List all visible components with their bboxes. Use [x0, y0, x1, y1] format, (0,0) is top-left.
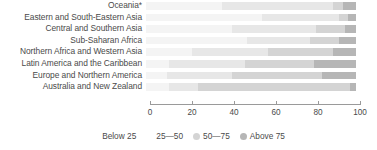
- bar-segment: [146, 2, 222, 10]
- chart-row: Oceania*: [0, 0, 377, 12]
- bar-segment: [339, 14, 347, 22]
- stacked-bar: [146, 25, 356, 33]
- bar-segment: [222, 2, 333, 10]
- category-label: Sub-Saharan Africa: [0, 35, 146, 47]
- bar-segment: [245, 60, 314, 68]
- x-axis-tick: [360, 101, 361, 105]
- bar-segment: [146, 14, 262, 22]
- x-axis-tick: [150, 101, 151, 105]
- chart-row: Northern Africa and Western Asia: [0, 46, 377, 58]
- bar-segment: [232, 72, 322, 80]
- legend-label: 25—50: [156, 131, 183, 141]
- category-label: Eastern and South-Eastern Asia: [0, 12, 146, 24]
- legend-swatch-icon: [240, 133, 247, 140]
- legend-item[interactable]: Below 25: [92, 131, 136, 141]
- bar-segment: [146, 72, 167, 80]
- bar-segment: [333, 2, 344, 10]
- legend-swatch-icon: [193, 133, 200, 140]
- chart-row: Central and Southern Asia: [0, 23, 377, 35]
- bar-segment: [146, 37, 247, 45]
- x-axis-tick-label: 40: [229, 108, 238, 118]
- x-axis-tick-label: 0: [148, 108, 153, 118]
- bar-segment: [322, 72, 356, 80]
- bar-segment: [232, 25, 316, 33]
- bar-segment: [345, 25, 356, 33]
- stacked-bar: [146, 37, 356, 45]
- category-label: Central and Southern Asia: [0, 23, 146, 35]
- stacked-bar: [146, 60, 356, 68]
- bar-segment: [316, 25, 345, 33]
- x-axis-tick-label: 20: [187, 108, 196, 118]
- chart-container: Oceania*Eastern and South-Eastern AsiaCe…: [0, 0, 377, 150]
- x-axis-tick: [276, 101, 277, 105]
- bar-segment: [146, 83, 169, 91]
- x-axis-tick-label: 80: [313, 108, 322, 118]
- chart-row: Europe and Northern America: [0, 70, 377, 82]
- chart-row: Latin America and the Caribbean: [0, 58, 377, 70]
- x-axis-tick: [192, 101, 193, 105]
- category-label: Northern Africa and Western Asia: [0, 46, 146, 58]
- bar-segment: [268, 48, 333, 56]
- legend-item[interactable]: 50—75: [193, 131, 230, 141]
- x-axis: 020406080100: [146, 104, 360, 130]
- legend-label: 50—75: [203, 131, 230, 141]
- chart-legend: Below 2525—5050—75Above 75: [0, 131, 377, 141]
- bar-segment: [314, 60, 356, 68]
- bar-segment: [333, 48, 356, 56]
- x-axis-tick: [318, 101, 319, 105]
- bar-segment: [348, 14, 356, 22]
- bar-segment: [146, 25, 232, 33]
- bar-segment: [198, 83, 349, 91]
- bar-segment: [343, 2, 356, 10]
- x-axis-tick-label: 60: [271, 108, 280, 118]
- x-axis-line: [150, 104, 360, 105]
- bar-segment: [146, 60, 169, 68]
- bar-segment: [339, 37, 356, 45]
- bar-segment: [192, 48, 268, 56]
- stacked-bar: [146, 2, 356, 10]
- stacked-bar: [146, 72, 356, 80]
- bar-segment: [167, 72, 232, 80]
- chart-row: Eastern and South-Eastern Asia: [0, 12, 377, 24]
- bar-segment: [169, 60, 245, 68]
- bar-segment: [169, 83, 198, 91]
- category-label: Oceania*: [0, 0, 146, 12]
- x-axis-tick-label: 100: [353, 108, 367, 118]
- bar-segment: [262, 14, 340, 22]
- bar-segment: [350, 83, 356, 91]
- stacked-bar: [146, 83, 356, 91]
- chart-plot-area: Oceania*Eastern and South-Eastern AsiaCe…: [0, 0, 377, 93]
- legend-item[interactable]: Above 75: [240, 131, 285, 141]
- chart-row: Australia and New Zealand: [0, 81, 377, 93]
- bar-segment: [247, 37, 310, 45]
- stacked-bar: [146, 14, 356, 22]
- legend-label: Above 75: [250, 131, 285, 141]
- category-label: Latin America and the Caribbean: [0, 58, 146, 70]
- stacked-bar: [146, 48, 356, 56]
- legend-label: Below 25: [102, 131, 136, 141]
- category-label: Australia and New Zealand: [0, 81, 146, 93]
- bar-segment: [310, 37, 339, 45]
- category-label: Europe and Northern America: [0, 70, 146, 82]
- x-axis-tick: [234, 101, 235, 105]
- legend-item[interactable]: 25—50: [146, 131, 183, 141]
- bar-segment: [146, 48, 192, 56]
- chart-row: Sub-Saharan Africa: [0, 35, 377, 47]
